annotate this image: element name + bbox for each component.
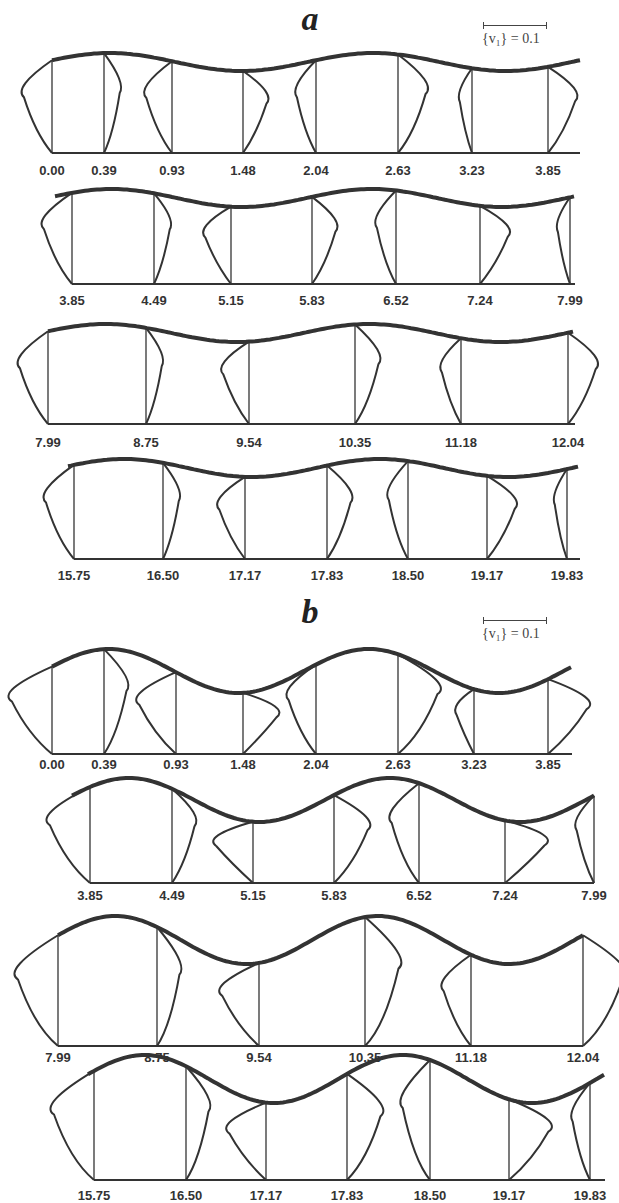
velocity-profile	[480, 206, 510, 284]
velocity-profile	[163, 463, 180, 559]
velocity-profile	[154, 193, 171, 284]
station-label: 16.50	[170, 1188, 203, 1203]
scale-bar-a	[483, 25, 547, 26]
station-label: 19.17	[493, 1188, 526, 1203]
velocity-profile	[213, 822, 253, 883]
velocity-profile	[455, 689, 474, 754]
velocity-profile	[398, 54, 428, 153]
scale-bar-b	[483, 620, 547, 621]
channel-wall	[52, 649, 571, 693]
velocity-profile	[487, 476, 517, 559]
velocity-profile	[104, 53, 121, 153]
velocity-profile	[217, 477, 245, 559]
channel-wall	[68, 459, 578, 477]
station-label: 19.17	[471, 568, 504, 583]
station-label: 17.83	[331, 1188, 364, 1203]
velocity-profile	[400, 1060, 430, 1180]
panel-b-row-1	[0, 630, 619, 774]
velocity-profile	[355, 324, 380, 424]
panel-a-row-2	[0, 175, 619, 304]
station-label: 18.50	[392, 568, 425, 583]
velocity-profile	[157, 927, 181, 1046]
velocity-profile	[144, 61, 172, 153]
velocity-profile	[146, 328, 163, 424]
velocity-profile	[226, 1103, 266, 1180]
velocity-profile	[459, 68, 472, 153]
velocity-profile	[583, 935, 619, 1046]
velocity-profile	[557, 197, 570, 284]
velocity-profile	[14, 935, 58, 1046]
channel-wall	[88, 1055, 604, 1103]
velocity-profile	[243, 71, 268, 153]
panel-b-row-2	[0, 760, 619, 903]
panel-b-row-4	[0, 1035, 619, 1200]
channel-wall	[72, 778, 594, 822]
velocity-profile	[295, 60, 316, 153]
channel-wall	[58, 916, 583, 964]
velocity-profile	[8, 667, 52, 754]
velocity-profile	[136, 672, 176, 754]
velocity-profile	[221, 342, 249, 424]
velocity-profile	[347, 1074, 383, 1180]
velocity-profile	[548, 679, 590, 754]
velocity-profile	[42, 193, 72, 284]
velocity-profile	[509, 1099, 552, 1180]
channel-wall	[48, 324, 573, 342]
panel-a-label: a	[302, 0, 319, 38]
panel-a-row-3	[0, 305, 619, 444]
station-label: 15.75	[58, 568, 91, 583]
station-label: 19.83	[574, 1188, 607, 1203]
velocity-profile	[50, 1071, 94, 1180]
velocity-profile	[575, 796, 594, 883]
panel-a-row-4	[0, 440, 619, 579]
station-label: 17.17	[229, 568, 262, 583]
velocity-profile	[548, 67, 578, 153]
velocity-profile	[22, 60, 52, 153]
velocity-profile	[203, 207, 231, 284]
velocity-profile	[186, 1066, 210, 1180]
station-label: 19.83	[551, 568, 584, 583]
velocity-profile	[505, 820, 548, 883]
station-label: 15.75	[78, 1188, 111, 1203]
velocity-profile	[243, 693, 279, 754]
velocity-profile	[568, 333, 598, 424]
velocity-profile	[441, 955, 471, 1046]
velocity-profile	[365, 917, 401, 1046]
velocity-profile	[18, 331, 48, 424]
velocity-profile	[104, 649, 128, 754]
velocity-profile	[440, 338, 461, 424]
station-label: 17.17	[250, 1188, 283, 1203]
velocity-profile	[571, 1083, 590, 1180]
velocity-profile	[312, 197, 337, 284]
velocity-profile	[389, 783, 419, 883]
station-label: 17.83	[311, 568, 344, 583]
velocity-profile	[554, 469, 567, 559]
panel-b-label: b	[302, 593, 319, 631]
velocity-profile	[334, 795, 370, 883]
velocity-profile	[44, 465, 74, 559]
velocity-profile	[375, 191, 396, 284]
panel-a-row-1	[0, 40, 619, 173]
station-label: 16.50	[147, 568, 180, 583]
station-label: 18.50	[414, 1188, 447, 1203]
velocity-profile	[219, 963, 259, 1046]
velocity-profile	[387, 461, 408, 559]
velocity-profile	[172, 789, 196, 883]
velocity-profile	[46, 787, 90, 883]
velocity-profile	[327, 466, 352, 559]
